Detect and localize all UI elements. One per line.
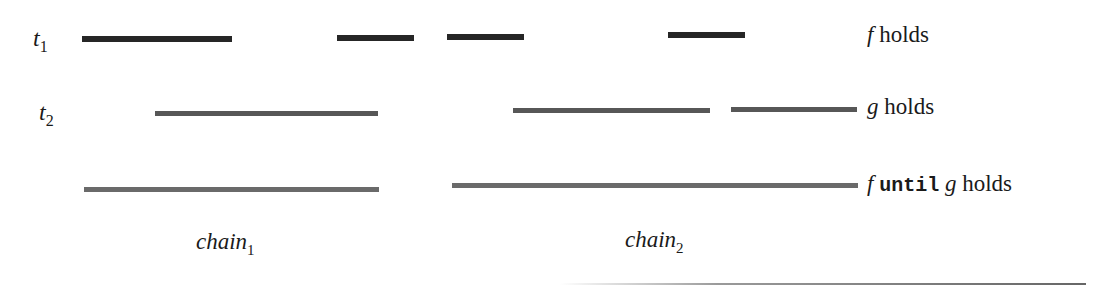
row-label-t1-sub: 1 [40,38,48,55]
legend-until-var1: f [867,171,873,196]
legend-until-keyword: until [879,174,939,197]
chain-2-name: chain [625,227,676,252]
chain-label-2: chain2 [625,228,684,256]
legend-g-var: g [867,94,879,119]
row-label-t2-name: t [39,99,46,125]
legend-f-holds: f holds [867,23,929,46]
f-interval [82,36,232,42]
legend-g-holds: g holds [867,95,934,118]
until-interval [452,183,858,188]
row-label-t2-sub: 2 [46,112,54,129]
g-interval [155,111,378,116]
legend-until-var2: g [945,171,957,196]
f-interval [447,34,524,40]
row-label-t1: t1 [33,26,48,55]
chain-1-sub: 1 [247,242,255,258]
chain-label-1: chain1 [196,230,255,258]
chain-2-sub: 2 [676,240,684,256]
legend-until-holds: f until g holds [867,172,1012,196]
legend-until-text: holds [956,171,1012,196]
f-interval [337,35,414,41]
g-interval [731,107,857,112]
f-interval [668,32,745,38]
chain-1-name: chain [196,229,247,254]
legend-f-text: holds [873,22,929,47]
g-interval [513,108,710,113]
row-label-t2: t2 [39,100,54,129]
bottom-rule [560,283,1086,285]
legend-g-text: holds [879,94,935,119]
until-interval [84,187,379,192]
row-label-t1-name: t [33,25,40,51]
